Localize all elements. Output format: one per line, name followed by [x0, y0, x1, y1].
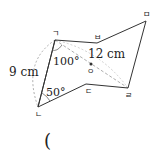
answer-parenthesis: (	[44, 130, 51, 151]
geometry-figure: ㄱ ㅂ ㅁ ㄹ ㄷ ㄴ ㅇ 9 cm 12 cm 100° 50° (	[0, 0, 164, 155]
angle-bottom-label: 50°	[46, 86, 66, 99]
diagonal-length-label: 12 cm	[88, 47, 126, 61]
vertex-label-nieun: ㄴ	[35, 110, 42, 119]
angle-top-label: 100°	[53, 55, 80, 68]
vertex-label-giyeok: ㄱ	[52, 29, 59, 38]
vertex-label-bieup: ㅂ	[94, 33, 101, 42]
center-point	[90, 63, 93, 66]
vertex-label-mieum: ㅁ	[143, 10, 150, 19]
point-label-ieung: ㅇ	[87, 67, 94, 76]
vertex-label-digeut: ㄷ	[85, 87, 92, 96]
vertex-label-rieul: ㄹ	[125, 91, 132, 100]
side-length-label: 9 cm	[9, 65, 39, 79]
